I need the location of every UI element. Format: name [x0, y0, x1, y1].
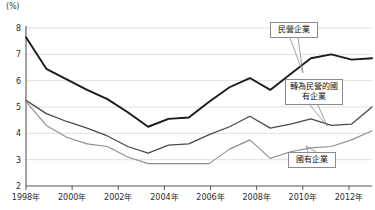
svg-text:2000年: 2000年 [58, 192, 86, 202]
svg-text:6: 6 [16, 77, 21, 86]
x-axis-tick-marks [26, 186, 349, 190]
series-callout-privatized-soe: 轉為民營的國 有企業 [285, 79, 343, 105]
series-callout-private-enterprises: 民營企業 [270, 22, 318, 38]
y-axis-tick-labels: 2345678 [16, 24, 21, 191]
svg-text:2002年: 2002年 [104, 192, 132, 202]
series-callout-state-owned-enterprises: 國有企業 [288, 152, 336, 168]
svg-text:2004年: 2004年 [150, 192, 178, 202]
svg-text:4: 4 [16, 129, 21, 138]
svg-text:3: 3 [16, 156, 21, 165]
svg-text:7: 7 [16, 50, 21, 59]
x-axis-tick-labels: 1998年2000年2002年2004年2006年2008年2010年2012年 [12, 192, 363, 202]
svg-text:2: 2 [16, 182, 21, 191]
svg-text:8: 8 [16, 24, 21, 33]
svg-text:2008年: 2008年 [242, 192, 270, 202]
svg-text:2006年: 2006年 [196, 192, 224, 202]
svg-text:2010年: 2010年 [289, 192, 317, 202]
line-chart: (%) 2345678 1998年2000年2002年2004年2006年200… [0, 0, 375, 210]
svg-text:1998年: 1998年 [12, 192, 40, 202]
svg-text:5: 5 [16, 103, 21, 112]
svg-text:2012年: 2012年 [335, 192, 363, 202]
chart-canvas: 2345678 1998年2000年2002年2004年2006年2008年20… [0, 0, 375, 210]
